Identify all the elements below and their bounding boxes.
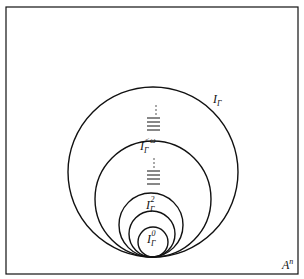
label-i-gamma-0: IΓ0: [146, 229, 156, 248]
nested-ideals-diagram: IΓ IΓ<ω IΓ2 IΓ0 An: [0, 0, 304, 279]
label-i-gamma-lt-omega: IΓ<ω: [139, 136, 156, 155]
label-i-gamma: IΓ: [212, 92, 222, 108]
upper-chain-ellipsis: [147, 105, 160, 130]
lower-chain-ellipsis: [147, 158, 160, 184]
label-i-gamma-2: IΓ2: [145, 195, 155, 214]
label-affine-space: An: [281, 257, 293, 272]
